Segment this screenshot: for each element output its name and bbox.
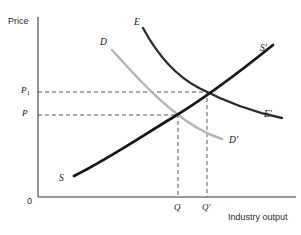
supply-demand-figure: Price Industry output 0 P1 P Q Q' S S' E… (0, 0, 301, 235)
curve-label-sprime-mark: ' (265, 43, 267, 53)
chart-canvas (0, 0, 301, 235)
x-tick-qprime-mark: ' (209, 202, 211, 212)
curve-label-eprime-mark: ' (270, 109, 272, 119)
curve-label-d-prime: D' (229, 136, 238, 146)
origin-label: 0 (27, 197, 32, 206)
y-tick-p1-subscript: 1 (27, 89, 30, 96)
curve-label-dprime-base: D (229, 135, 236, 145)
curve-label-e-prime: E' (264, 110, 272, 120)
curve-label-s: S (59, 174, 64, 184)
y-axis-title: Price (8, 17, 29, 26)
curve-label-s-prime: S' (260, 44, 267, 54)
x-tick-label-qprime: Q' (202, 203, 210, 212)
curve-label-dprime-mark: ' (236, 135, 238, 145)
curve-label-s-base: S (59, 173, 64, 183)
curve-label-d-base: D (100, 37, 107, 47)
y-tick-label-p1: P1 (21, 86, 30, 95)
curve-label-e-base: E (134, 17, 140, 27)
curve-label-d: D (100, 38, 107, 48)
curve-label-e: E (134, 18, 140, 28)
x-tick-q-base: Q (174, 202, 181, 212)
y-tick-label-p: P (22, 109, 28, 118)
y-tick-p1-base: P (21, 85, 27, 95)
y-tick-p-base: P (22, 108, 28, 118)
x-axis-title: Industry output (228, 213, 288, 222)
x-tick-label-q: Q (174, 203, 181, 212)
